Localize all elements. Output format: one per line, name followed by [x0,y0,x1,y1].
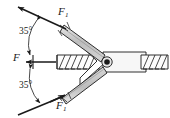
force-label-f-center-symbol: F [13,51,20,63]
diagram-canvas [0,0,170,118]
force-label-f1-lower: F1 [56,100,67,113]
right-threaded-rod [141,55,168,69]
lower-arm-highlight [64,69,104,98]
force-label-f1-lower-subscript: 1 [63,105,67,113]
mechanics-diagram-figure: F1 F1 F 35° 35° [0,0,170,118]
pivot-center [104,59,110,65]
lower-arm-body [62,67,107,104]
force-label-f1-upper: F1 [58,6,69,19]
upper-arm-highlight [63,28,103,57]
force-label-f1-upper-symbol: F [58,5,65,17]
angle-label-top: 35° [19,27,32,37]
pivot-pin [102,57,112,67]
angle-label-bottom: 35° [19,81,32,91]
lower-arm [58,67,107,104]
force-label-f1-upper-subscript: 1 [65,11,69,19]
force-label-f1-lower-symbol: F [56,99,63,111]
force-label-f-center: F [13,52,20,65]
